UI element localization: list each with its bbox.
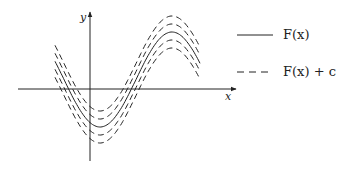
diagram-canvas [0, 0, 352, 170]
x-axis-label: x [225, 90, 231, 103]
legend-item-solid: F(x) [283, 27, 310, 42]
legend-item-dashed: F(x) + c [283, 64, 336, 79]
y-axis-label: y [80, 11, 86, 24]
curve-f-plus-c [55, 48, 200, 143]
curve-f-plus-c [55, 40, 200, 135]
curves-group [55, 16, 200, 143]
